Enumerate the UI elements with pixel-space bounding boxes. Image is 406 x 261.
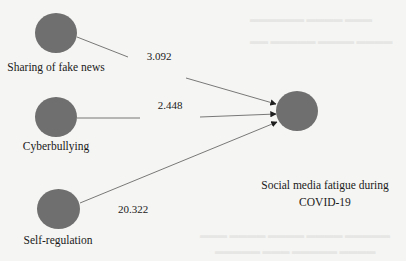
node-cyberbullying	[35, 97, 77, 137]
path-coefficient-cyberbullying: 2.448	[158, 99, 183, 111]
path-coefficient-self-regulation: 20.322	[118, 203, 148, 215]
path-coefficient-sharing: 3.092	[147, 50, 172, 62]
node-social-media-fatigue	[276, 91, 318, 131]
node-label-social-media-fatigue: Social media fatigue during COVID-19	[261, 177, 388, 211]
edge-cyberbullying-to-fatigue	[77, 114, 276, 118]
node-label-line1: Social media fatigue during	[261, 177, 388, 194]
node-label-self-regulation: Self-regulation	[24, 232, 93, 249]
edge-selfregulation-to-fatigue	[80, 122, 277, 203]
node-label-line2: COVID-19	[261, 194, 388, 211]
path-diagram: ▬▬▬ ▬▬▬▬ ▬▬▬▬▬▬ ▬▬▬▬ ▬▬▬▬ ▬▬▬▬▬ ▬▬ ▬▬▬▬▬…	[0, 0, 406, 261]
edge-sharing-to-fatigue	[77, 37, 276, 104]
node-sharing-of-fake-news	[35, 13, 77, 53]
node-label-sharing-of-fake-news: Sharing of fake news	[7, 59, 104, 76]
node-self-regulation	[37, 189, 80, 229]
node-label-cyberbullying: Cyberbullying	[23, 138, 89, 155]
